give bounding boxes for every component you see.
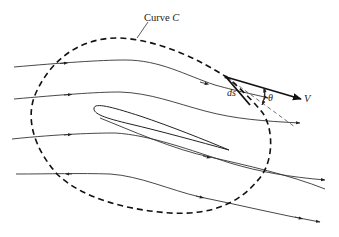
velocity-vector bbox=[226, 77, 301, 99]
vector-origin-point bbox=[224, 75, 227, 78]
curve-label-leader bbox=[137, 22, 148, 38]
curve-c-label: Curve C bbox=[144, 12, 180, 23]
circulation-diagram: Curve C ds θ V bbox=[0, 0, 339, 237]
ds-label: ds bbox=[227, 87, 236, 98]
streamline-5 bbox=[16, 174, 320, 222]
theta-label: θ bbox=[268, 92, 273, 103]
streamline-4 bbox=[100, 118, 325, 189]
streamline-3 bbox=[12, 133, 325, 180]
velocity-label: V bbox=[304, 93, 312, 104]
tangent-line bbox=[228, 78, 295, 127]
curve-c bbox=[31, 38, 271, 213]
